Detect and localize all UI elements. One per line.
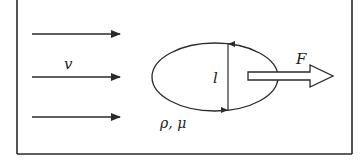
force-arrow [248, 65, 333, 87]
velocity-label: v [64, 55, 73, 73]
flow-arrows [32, 34, 120, 117]
fluid-properties-label: ρ, μ [159, 115, 186, 131]
length-label: l [213, 69, 218, 87]
fluid-drag-diagram: v l F ρ, μ [0, 0, 363, 165]
force-label: F [295, 50, 307, 68]
